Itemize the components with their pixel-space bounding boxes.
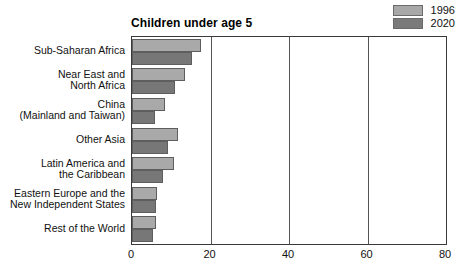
chart-legend: 1996 2020 [393, 4, 455, 29]
bars-layer [132, 37, 446, 244]
y-axis-label-sub-saharan-africa: Sub-Saharan Africa [34, 45, 125, 56]
bar-group [132, 187, 446, 213]
bar-group [132, 216, 446, 242]
y-axis-label-other-asia: Other Asia [76, 134, 125, 145]
y-axis-labels: Sub-Saharan Africa Near East and North A… [0, 36, 128, 245]
bar-2020 [132, 170, 163, 183]
bar-2020 [132, 52, 192, 65]
bar-2020 [132, 141, 168, 154]
bar-2020 [132, 200, 156, 213]
bar-1996 [132, 39, 201, 52]
y-axis-label-rest-of-the-world: Rest of the World [44, 223, 125, 234]
y-axis-label-latin-america-and-the-caribbean: Latin America and the Caribbean [41, 158, 125, 180]
chart-title: Children under age 5 [131, 16, 252, 30]
bar-group [132, 68, 446, 94]
legend-label-1996: 1996 [431, 4, 455, 16]
bar-group [132, 39, 446, 65]
legend-item-1996: 1996 [393, 4, 455, 16]
legend-swatch-2020-icon [393, 18, 423, 29]
bar-2020 [132, 111, 155, 124]
y-axis-label-china: China (Mainland and Taiwan) [20, 99, 125, 121]
y-axis-label-near-east-and-north-africa: Near East and North Africa [58, 69, 125, 91]
x-axis-tick-40: 40 [282, 248, 294, 260]
bar-1996 [132, 68, 185, 81]
bar-1996 [132, 216, 156, 229]
bar-1996 [132, 157, 174, 170]
bar-group [132, 128, 446, 154]
x-axis-tick-80: 80 [439, 248, 451, 260]
x-axis-tick-0: 0 [128, 248, 134, 260]
bar-chart: 1996 2020 Children under age 5 Sub-Sahar… [0, 0, 463, 270]
bar-2020 [132, 229, 153, 242]
x-axis-tick-20: 20 [203, 248, 215, 260]
bar-group [132, 157, 446, 183]
legend-item-2020: 2020 [393, 17, 455, 29]
bar-group [132, 98, 446, 124]
y-axis-label-eastern-europe-and-new-independent-states: Eastern Europe and the New Independent S… [10, 188, 125, 210]
plot-area [131, 36, 447, 245]
bar-2020 [132, 81, 175, 94]
bar-1996 [132, 98, 165, 111]
bar-1996 [132, 187, 157, 200]
legend-label-2020: 2020 [431, 17, 455, 29]
x-axis-tick-60: 60 [360, 248, 372, 260]
x-axis-ticks: 020406080 [0, 248, 463, 268]
legend-swatch-1996-icon [393, 5, 423, 16]
bar-1996 [132, 128, 178, 141]
